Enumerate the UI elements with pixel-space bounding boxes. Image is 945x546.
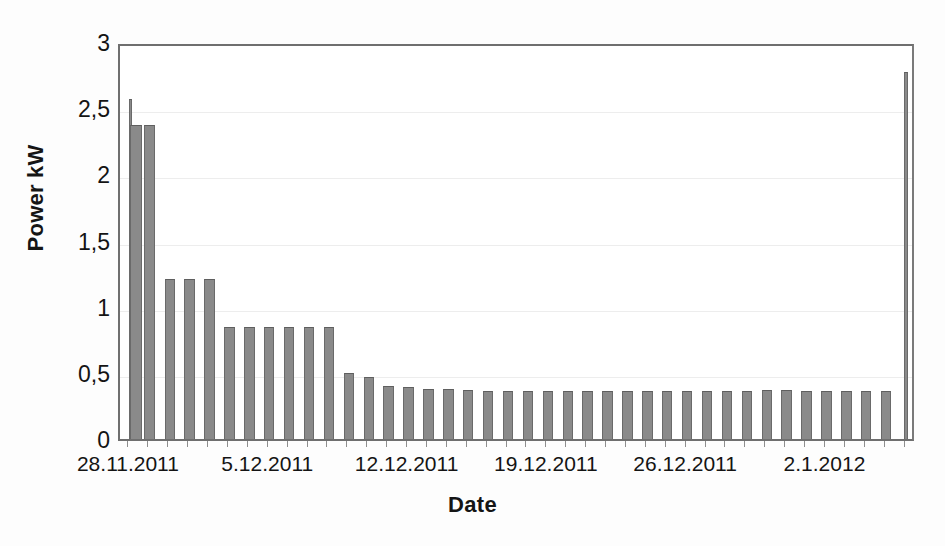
x-tick-label: 26.12.2011 bbox=[633, 452, 737, 476]
x-tick-mark bbox=[744, 441, 745, 447]
x-tick-mark bbox=[227, 441, 228, 447]
x-tick-mark bbox=[724, 441, 725, 447]
bar bbox=[244, 327, 254, 439]
bar bbox=[543, 391, 553, 439]
bar bbox=[403, 387, 413, 439]
bar bbox=[503, 391, 513, 439]
x-tick-mark bbox=[187, 441, 188, 447]
x-tick-mark bbox=[864, 441, 865, 447]
plot-area bbox=[118, 44, 914, 441]
x-tick-mark bbox=[824, 441, 825, 447]
bar bbox=[224, 327, 234, 439]
x-tick-mark bbox=[307, 441, 308, 447]
bar-series bbox=[120, 46, 912, 439]
x-tick-mark bbox=[386, 441, 387, 447]
bar bbox=[582, 391, 592, 439]
x-tick-mark bbox=[645, 441, 646, 447]
x-tick-mark bbox=[705, 441, 706, 447]
x-tick-mark bbox=[167, 441, 168, 447]
x-tick-mark bbox=[127, 441, 128, 447]
bar bbox=[423, 389, 433, 439]
bar bbox=[383, 386, 393, 439]
bar bbox=[662, 391, 672, 439]
x-tick-mark bbox=[685, 441, 686, 447]
x-tick-mark bbox=[346, 441, 347, 447]
x-axis-title: Date bbox=[0, 492, 945, 518]
bar bbox=[563, 391, 573, 439]
x-tick-mark bbox=[565, 441, 566, 447]
bar bbox=[184, 279, 194, 439]
bar bbox=[742, 391, 752, 439]
bar bbox=[144, 125, 155, 439]
x-tick-mark bbox=[366, 441, 367, 447]
x-axis-tick-marks bbox=[118, 441, 914, 448]
bar bbox=[204, 279, 214, 439]
bar bbox=[781, 390, 791, 439]
bar bbox=[682, 391, 692, 439]
x-tick-label: 28.11.2011 bbox=[77, 452, 179, 476]
x-tick-mark bbox=[844, 441, 845, 447]
x-tick-mark bbox=[585, 441, 586, 447]
bar bbox=[130, 125, 142, 439]
x-tick-mark bbox=[267, 441, 268, 447]
y-tick-label: 0 bbox=[48, 429, 110, 452]
bar bbox=[602, 391, 612, 439]
bar bbox=[483, 391, 493, 439]
x-tick-mark bbox=[804, 441, 805, 447]
bar bbox=[642, 391, 652, 439]
bar bbox=[722, 391, 732, 439]
bar bbox=[443, 389, 453, 439]
bar bbox=[463, 390, 473, 439]
x-tick-mark bbox=[884, 441, 885, 447]
x-axis-tick-labels: 28.11.20115.12.201112.12.201119.12.20112… bbox=[0, 452, 945, 484]
x-tick-label: 5.12.2011 bbox=[221, 452, 313, 476]
x-tick-mark bbox=[506, 441, 507, 447]
x-tick-mark bbox=[525, 441, 526, 447]
x-tick-mark bbox=[625, 441, 626, 447]
y-tick-label: 1,5 bbox=[48, 231, 110, 254]
y-tick-label: 0,5 bbox=[48, 363, 110, 386]
bar bbox=[324, 327, 334, 439]
bar bbox=[841, 391, 851, 439]
x-tick-mark bbox=[605, 441, 606, 447]
x-tick-mark bbox=[326, 441, 327, 447]
bar bbox=[523, 391, 533, 439]
x-tick-mark bbox=[406, 441, 407, 447]
bar bbox=[861, 391, 871, 439]
bar bbox=[622, 391, 632, 439]
x-tick-mark bbox=[247, 441, 248, 447]
x-tick-mark bbox=[665, 441, 666, 447]
x-tick-mark bbox=[207, 441, 208, 447]
bar bbox=[304, 327, 314, 439]
y-tick-label: 3 bbox=[48, 32, 110, 55]
x-tick-mark bbox=[426, 441, 427, 447]
power-vs-date-bar-chart: Power kW 00,511,522,53 28.11.20115.12.20… bbox=[0, 0, 945, 546]
bar bbox=[344, 373, 354, 439]
bar bbox=[165, 279, 175, 439]
x-tick-mark bbox=[486, 441, 487, 447]
x-tick-label: 2.1.2012 bbox=[784, 452, 866, 476]
y-tick-label: 2 bbox=[48, 164, 110, 187]
bar bbox=[821, 391, 831, 439]
x-tick-label: 12.12.2011 bbox=[355, 452, 459, 476]
y-tick-label: 1 bbox=[48, 297, 110, 320]
x-tick-label: 19.12.2011 bbox=[494, 452, 598, 476]
x-tick-mark bbox=[764, 441, 765, 447]
bar bbox=[904, 72, 908, 439]
y-tick-label: 2,5 bbox=[48, 98, 110, 121]
x-tick-mark bbox=[287, 441, 288, 447]
bar bbox=[702, 391, 712, 439]
bar bbox=[762, 390, 772, 439]
x-tick-mark bbox=[545, 441, 546, 447]
x-tick-mark bbox=[904, 441, 905, 447]
bar bbox=[364, 377, 374, 439]
bar bbox=[881, 391, 891, 439]
x-tick-mark bbox=[784, 441, 785, 447]
bar bbox=[801, 391, 811, 439]
x-tick-mark bbox=[446, 441, 447, 447]
bar bbox=[284, 327, 294, 439]
x-tick-mark bbox=[466, 441, 467, 447]
x-tick-mark bbox=[147, 441, 148, 447]
bar bbox=[264, 327, 274, 439]
